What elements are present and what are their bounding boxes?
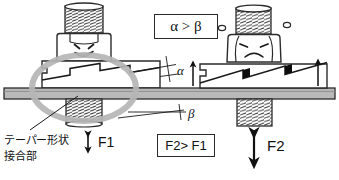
right-bolt-thread: [237, 99, 272, 126]
alpha-angle-label: α: [177, 63, 184, 79]
force-relation-text: F2> F1: [165, 138, 207, 153]
taper-callout-line2: 接合部: [4, 150, 36, 163]
diagram-canvas: α > β F2> F1 α β F1 F2 テーパー形状 接合部: [0, 0, 339, 180]
taper-callout-line1: テーパー形状: [4, 134, 69, 147]
f2-label: F2: [267, 137, 285, 154]
angle-relation-box: α > β: [154, 14, 218, 39]
sweat-drop-left: [218, 25, 225, 30]
force-relation-box: F2> F1: [157, 134, 215, 157]
sweat-drop-right: [283, 22, 290, 27]
right-bolt-head-character: [218, 5, 290, 62]
beta-angle-label: β: [188, 106, 194, 122]
f1-label: F1: [98, 134, 114, 150]
base-plate: [4, 88, 335, 99]
right-clamped-block: [200, 63, 327, 89]
angle-relation-text: α > β: [170, 18, 201, 35]
